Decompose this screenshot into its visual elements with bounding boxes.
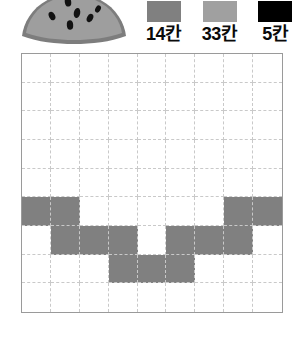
grid-cell-r7-c3[interactable]: [109, 255, 138, 284]
grid-cell-r8-c3[interactable]: [109, 283, 138, 312]
grid-cell-r7-c4[interactable]: [138, 255, 167, 284]
grid-cell-r6-c4[interactable]: [138, 226, 167, 255]
grid-cell-r5-c5[interactable]: [166, 197, 195, 226]
grid-cell-r0-c1[interactable]: [51, 54, 80, 83]
grid-cell-r2-c7[interactable]: [224, 111, 253, 140]
grid-cell-r0-c7[interactable]: [224, 54, 253, 83]
grid-cell-r4-c2[interactable]: [80, 169, 109, 198]
legend: 14칸 33칸 5칸: [136, 0, 303, 45]
grid-cell-r4-c0[interactable]: [22, 169, 51, 198]
grid-cell-r1-c1[interactable]: [51, 83, 80, 112]
legend-swatch-dark-gray: [147, 1, 181, 22]
grid-cell-r6-c8[interactable]: [253, 226, 282, 255]
grid-cell-r2-c0[interactable]: [22, 111, 51, 140]
grid-cell-r3-c8[interactable]: [253, 140, 282, 169]
grid-cell-r0-c4[interactable]: [138, 54, 167, 83]
grid-cell-r4-c4[interactable]: [138, 169, 167, 198]
grid-cell-r3-c6[interactable]: [195, 140, 224, 169]
grid-cell-r2-c3[interactable]: [109, 111, 138, 140]
grid-cell-r0-c2[interactable]: [80, 54, 109, 83]
grid-cell-r2-c6[interactable]: [195, 111, 224, 140]
grid-cell-r3-c0[interactable]: [22, 140, 51, 169]
grid-cell-r2-c2[interactable]: [80, 111, 109, 140]
grid-cell-r1-c2[interactable]: [80, 83, 109, 112]
legend-swatch-black: [258, 1, 292, 22]
grid-cell-r7-c0[interactable]: [22, 255, 51, 284]
grid-cell-r0-c5[interactable]: [166, 54, 195, 83]
grid-cell-r6-c3[interactable]: [109, 226, 138, 255]
legend-label-light-gray: 33칸: [202, 24, 238, 44]
pixel-grid-container: [21, 53, 283, 313]
grid-cell-r4-c8[interactable]: [253, 169, 282, 198]
grid-cell-r5-c3[interactable]: [109, 197, 138, 226]
grid-cell-r6-c1[interactable]: [51, 226, 80, 255]
grid-cell-r1-c8[interactable]: [253, 83, 282, 112]
legend-label-black: 5칸: [262, 24, 288, 44]
grid-cell-r0-c0[interactable]: [22, 54, 51, 83]
grid-cell-r1-c7[interactable]: [224, 83, 253, 112]
grid-cell-r6-c6[interactable]: [195, 226, 224, 255]
grid-cell-r5-c4[interactable]: [138, 197, 167, 226]
watermelon-slice-illustration: [22, 0, 126, 44]
grid-cell-r7-c1[interactable]: [51, 255, 80, 284]
legend-label-dark-gray: 14칸: [146, 24, 182, 44]
grid-cell-r8-c7[interactable]: [224, 283, 253, 312]
grid-cell-r6-c5[interactable]: [166, 226, 195, 255]
grid-cell-r8-c0[interactable]: [22, 283, 51, 312]
grid-cell-r7-c7[interactable]: [224, 255, 253, 284]
grid-cell-r6-c2[interactable]: [80, 226, 109, 255]
legend-item-light-gray: 33칸: [192, 0, 248, 44]
grid-cell-r8-c6[interactable]: [195, 283, 224, 312]
grid-cell-r3-c2[interactable]: [80, 140, 109, 169]
grid-cell-r4-c3[interactable]: [109, 169, 138, 198]
grid-cell-r5-c7[interactable]: [224, 197, 253, 226]
grid-cell-r2-c8[interactable]: [253, 111, 282, 140]
grid-cell-r1-c6[interactable]: [195, 83, 224, 112]
grid-cell-r2-c5[interactable]: [166, 111, 195, 140]
grid-cell-r3-c7[interactable]: [224, 140, 253, 169]
grid-cell-r2-c1[interactable]: [51, 111, 80, 140]
grid-cell-r8-c1[interactable]: [51, 283, 80, 312]
grid-cell-r1-c4[interactable]: [138, 83, 167, 112]
grid-cell-r0-c6[interactable]: [195, 54, 224, 83]
legend-item-dark-gray: 14칸: [136, 0, 192, 44]
grid-cell-r3-c3[interactable]: [109, 140, 138, 169]
grid-cell-r7-c2[interactable]: [80, 255, 109, 284]
grid-cell-r5-c0[interactable]: [22, 197, 51, 226]
grid-cell-r1-c3[interactable]: [109, 83, 138, 112]
grid-cell-r5-c1[interactable]: [51, 197, 80, 226]
grid-cell-r5-c8[interactable]: [253, 197, 282, 226]
grid-cell-r5-c2[interactable]: [80, 197, 109, 226]
grid-cell-r7-c6[interactable]: [195, 255, 224, 284]
grid-cell-r5-c6[interactable]: [195, 197, 224, 226]
grid-cell-r6-c0[interactable]: [22, 226, 51, 255]
grid-cell-r4-c6[interactable]: [195, 169, 224, 198]
grid-cell-r3-c5[interactable]: [166, 140, 195, 169]
pixel-grid[interactable]: [22, 54, 282, 312]
header-strip: 14칸 33칸 5칸: [0, 0, 303, 46]
grid-cell-r3-c1[interactable]: [51, 140, 80, 169]
grid-cell-r4-c7[interactable]: [224, 169, 253, 198]
grid-cell-r6-c7[interactable]: [224, 226, 253, 255]
grid-cell-r8-c2[interactable]: [80, 283, 109, 312]
grid-cell-r1-c0[interactable]: [22, 83, 51, 112]
grid-cell-r8-c4[interactable]: [138, 283, 167, 312]
grid-cell-r8-c8[interactable]: [253, 283, 282, 312]
grid-cell-r4-c1[interactable]: [51, 169, 80, 198]
legend-swatch-light-gray: [203, 1, 237, 22]
grid-cell-r4-c5[interactable]: [166, 169, 195, 198]
grid-cell-r7-c8[interactable]: [253, 255, 282, 284]
grid-cell-r1-c5[interactable]: [166, 83, 195, 112]
legend-item-black: 5칸: [247, 0, 303, 44]
grid-cell-r8-c5[interactable]: [166, 283, 195, 312]
grid-cell-r0-c8[interactable]: [253, 54, 282, 83]
grid-cell-r2-c4[interactable]: [138, 111, 167, 140]
grid-cell-r3-c4[interactable]: [138, 140, 167, 169]
grid-cell-r7-c5[interactable]: [166, 255, 195, 284]
grid-cell-r0-c3[interactable]: [109, 54, 138, 83]
